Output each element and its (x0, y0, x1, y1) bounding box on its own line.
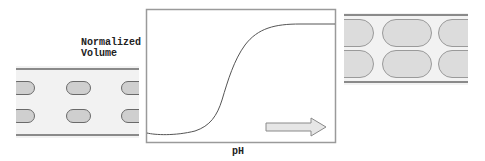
droplet (438, 50, 468, 78)
ph-increase-arrow-icon (266, 118, 326, 136)
right-channel-image (344, 13, 468, 85)
droplet (438, 19, 468, 47)
droplet (382, 19, 432, 47)
sigmoid-curve (147, 24, 335, 135)
droplet (382, 50, 432, 78)
channel-wall-bottom (344, 81, 468, 83)
x-axis-label: pH (232, 146, 244, 157)
channel-wall-top (344, 14, 468, 16)
droplet (344, 19, 374, 47)
droplet (344, 50, 374, 78)
